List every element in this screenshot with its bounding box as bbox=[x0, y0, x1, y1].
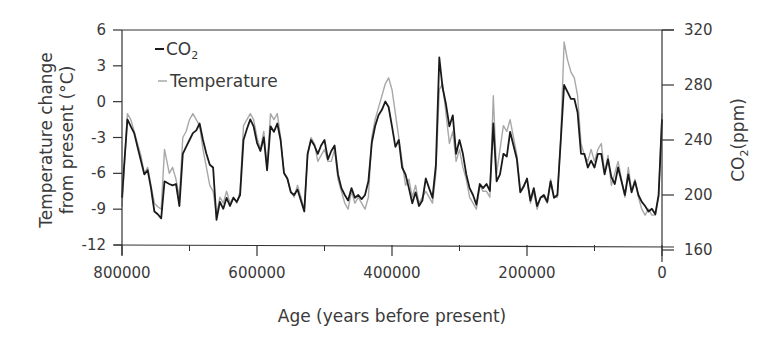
y-left-axis-title-line-2: from present (°C) bbox=[57, 66, 77, 215]
y-left-tick-label: 0 bbox=[96, 93, 106, 111]
y-left-axis-title: Temperature change from present (°C) bbox=[36, 52, 77, 229]
y-left-tick-label: 3 bbox=[96, 57, 106, 75]
y-right-tick-label: 240 bbox=[684, 131, 713, 149]
y-right-axis-title-sub: 2 bbox=[738, 150, 751, 157]
y-right-axis-title-co: CO bbox=[728, 157, 748, 182]
legend: CO2 Temperature bbox=[155, 39, 278, 91]
y-right-axis: 320280240200160 bbox=[662, 21, 713, 262]
x-tick-label: 600000 bbox=[228, 264, 285, 282]
x-tick-label: 800000 bbox=[93, 264, 150, 282]
y-right-tick-label: 320 bbox=[684, 21, 713, 39]
y-left-tick-label: -9 bbox=[91, 200, 106, 218]
svg-text:CO2(ppm): CO2(ppm) bbox=[728, 98, 751, 182]
chart-svg: 8000006000004000002000000 630-3-6-9-12 3… bbox=[0, 0, 771, 345]
legend-item-co2: CO2 bbox=[155, 39, 198, 62]
y-right-axis-title-unit: (ppm) bbox=[728, 98, 748, 149]
y-right-axis-title: CO2(ppm) bbox=[728, 98, 751, 182]
y-right-tick-label: 200 bbox=[684, 186, 713, 204]
x-tick-label: 200000 bbox=[498, 264, 555, 282]
y-right-tick-label: 160 bbox=[684, 241, 713, 259]
x-tick-label: 0 bbox=[657, 264, 667, 282]
x-axis: 8000006000004000002000000 bbox=[93, 245, 674, 282]
svg-text:CO2: CO2 bbox=[166, 39, 198, 62]
y-right-tick-label: 280 bbox=[684, 76, 713, 94]
legend-item-temperature: Temperature bbox=[158, 71, 278, 91]
y-left-tick-label: -3 bbox=[91, 129, 106, 147]
y-left-tick-label: -12 bbox=[82, 236, 107, 254]
x-axis-line bbox=[114, 245, 674, 247]
legend-label-co2-sub: 2 bbox=[191, 49, 198, 62]
legend-label-temperature: Temperature bbox=[169, 71, 278, 91]
y-left-axis: 630-3-6-9-12 bbox=[82, 21, 123, 255]
x-tick-label: 400000 bbox=[363, 264, 420, 282]
y-left-tick-label: -6 bbox=[91, 164, 106, 182]
y-left-tick-label: 6 bbox=[96, 21, 106, 39]
y-left-axis-title-line-1: Temperature change bbox=[36, 52, 56, 229]
x-axis-title: Age (years before present) bbox=[278, 306, 506, 326]
legend-label-co2: CO bbox=[166, 39, 191, 59]
